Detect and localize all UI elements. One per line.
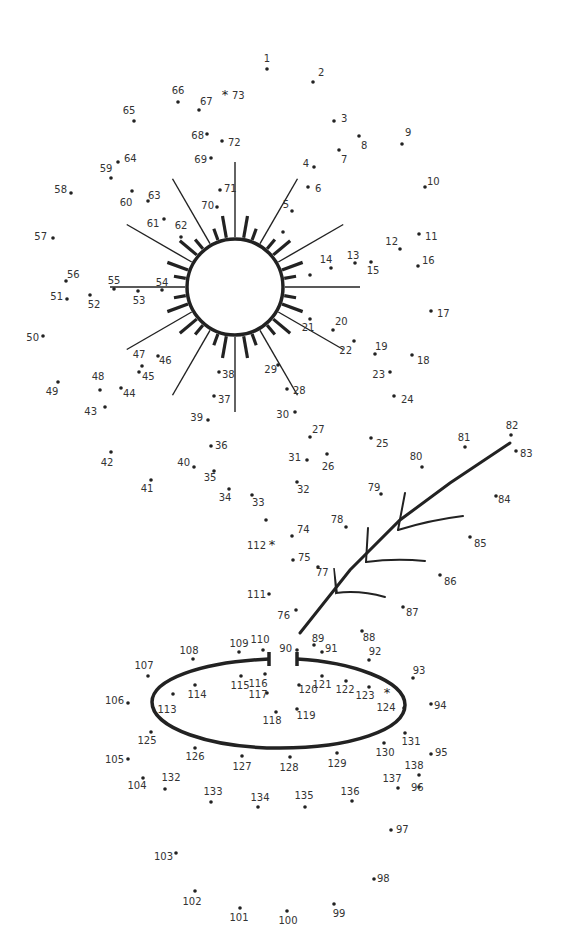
dot-point[interactable] bbox=[303, 805, 307, 809]
dot-point[interactable] bbox=[137, 370, 141, 374]
dot-point[interactable] bbox=[41, 334, 45, 338]
puzzle-dot[interactable]: 29 bbox=[264, 363, 280, 375]
puzzle-dot[interactable]: 24 bbox=[392, 394, 414, 405]
dot-point[interactable] bbox=[65, 297, 69, 301]
dot-point[interactable] bbox=[331, 328, 335, 332]
puzzle-dot[interactable]: 121 bbox=[312, 674, 331, 690]
puzzle-dot[interactable]: 108 bbox=[179, 645, 198, 661]
dot-point[interactable] bbox=[197, 108, 201, 112]
puzzle-dot[interactable]: 81 bbox=[458, 432, 471, 449]
dot-point[interactable] bbox=[193, 889, 197, 893]
puzzle-dot[interactable]: 93 bbox=[411, 665, 425, 680]
dot-point[interactable] bbox=[103, 405, 107, 409]
puzzle-dot[interactable]: 124 bbox=[376, 702, 405, 713]
puzzle-dot[interactable]: 111 bbox=[247, 589, 271, 600]
dot-point[interactable] bbox=[372, 877, 376, 881]
puzzle-dot[interactable]: 129 bbox=[327, 751, 346, 769]
dot-point[interactable] bbox=[332, 119, 336, 123]
puzzle-dot[interactable]: 95 bbox=[429, 747, 448, 758]
puzzle-dot[interactable]: 82 bbox=[506, 420, 519, 437]
dot-point[interactable] bbox=[320, 674, 324, 678]
dot-point[interactable] bbox=[295, 648, 299, 652]
dot-point[interactable] bbox=[193, 683, 197, 687]
dot-point[interactable] bbox=[176, 100, 180, 104]
puzzle-dot[interactable]: 85 bbox=[468, 535, 487, 549]
puzzle-dot[interactable]: 35 bbox=[204, 469, 217, 483]
dot-point[interactable] bbox=[344, 525, 348, 529]
dot-point[interactable] bbox=[429, 309, 433, 313]
puzzle-dot[interactable]: 97 bbox=[389, 824, 409, 835]
dot-point[interactable] bbox=[401, 605, 405, 609]
puzzle-dot[interactable]: 27 bbox=[308, 424, 325, 439]
puzzle-dot[interactable]: 106 bbox=[105, 695, 130, 706]
dot-point[interactable] bbox=[51, 236, 55, 240]
puzzle-dot[interactable]: 89 bbox=[312, 633, 325, 647]
dot-point[interactable] bbox=[132, 119, 136, 123]
puzzle-dot[interactable]: 30 bbox=[276, 409, 297, 420]
dot-point[interactable] bbox=[264, 518, 268, 522]
puzzle-dot[interactable]: 94 bbox=[429, 700, 447, 711]
dot-point[interactable] bbox=[291, 558, 295, 562]
dot-point[interactable] bbox=[367, 685, 371, 689]
puzzle-dot[interactable]: 37 bbox=[212, 394, 231, 405]
puzzle-dot[interactable]: 103 bbox=[154, 851, 178, 862]
dot-point[interactable] bbox=[410, 353, 414, 357]
puzzle-dot[interactable]: 80 bbox=[410, 451, 424, 469]
dot-point[interactable] bbox=[463, 445, 467, 449]
puzzle-dot[interactable]: 67 bbox=[197, 96, 213, 112]
puzzle-dot[interactable]: 72 bbox=[220, 137, 241, 148]
puzzle-dot[interactable]: 126 bbox=[185, 746, 204, 762]
dot-point[interactable] bbox=[353, 261, 357, 265]
puzzle-dot[interactable]: 10 bbox=[423, 176, 440, 189]
puzzle-dot[interactable]: 32 bbox=[295, 480, 310, 495]
dot-point[interactable] bbox=[69, 191, 73, 195]
puzzle-dot[interactable]: 137 bbox=[382, 773, 401, 790]
dot-point[interactable] bbox=[206, 418, 210, 422]
dot-point[interactable] bbox=[209, 444, 213, 448]
puzzle-dot[interactable]: 22 bbox=[339, 339, 356, 356]
puzzle-dot[interactable]: 63 bbox=[146, 190, 161, 203]
dot-point[interactable] bbox=[402, 706, 406, 710]
dot-point[interactable] bbox=[308, 317, 312, 321]
puzzle-dot[interactable]: 127 bbox=[232, 754, 251, 772]
dot-point[interactable] bbox=[290, 209, 294, 213]
puzzle-dot[interactable]: 128 bbox=[279, 755, 298, 773]
puzzle-dot[interactable]: 64 bbox=[116, 153, 137, 164]
puzzle-dot[interactable]: 26 bbox=[322, 452, 335, 472]
puzzle-dot[interactable]: 91 bbox=[320, 643, 338, 654]
dot-point[interactable] bbox=[116, 160, 120, 164]
puzzle-dot[interactable]: 59 bbox=[100, 163, 113, 180]
dot-point[interactable] bbox=[388, 370, 392, 374]
dot-point[interactable] bbox=[369, 260, 373, 264]
puzzle-dot[interactable]: 12 bbox=[385, 236, 402, 251]
puzzle-dot[interactable]: 2 bbox=[311, 67, 324, 84]
puzzle-dot[interactable]: 123 bbox=[355, 685, 374, 701]
puzzle-dot[interactable]: 8 bbox=[357, 134, 367, 151]
puzzle-dot[interactable]: 101 bbox=[229, 906, 248, 923]
dot-point[interactable] bbox=[400, 142, 404, 146]
dot-point[interactable] bbox=[329, 266, 333, 270]
dot-point[interactable] bbox=[163, 787, 167, 791]
dot-point[interactable] bbox=[160, 288, 164, 292]
puzzle-dot[interactable]: 38 bbox=[217, 369, 235, 380]
puzzle-dot[interactable]: 6 bbox=[306, 183, 321, 194]
puzzle-dot[interactable]: 7 bbox=[337, 148, 347, 165]
dot-point[interactable] bbox=[288, 755, 292, 759]
puzzle-dot[interactable]: 11 bbox=[417, 231, 438, 242]
puzzle-dot[interactable]: 136 bbox=[340, 786, 359, 803]
puzzle-dot[interactable]: 69 bbox=[194, 154, 213, 165]
puzzle-dot[interactable]: 60 bbox=[120, 189, 134, 208]
dot-point[interactable] bbox=[109, 176, 113, 180]
puzzle-dot[interactable]: 48 bbox=[92, 371, 105, 392]
puzzle-dot[interactable]: 104 bbox=[127, 776, 146, 791]
puzzle-dot[interactable]: 115 bbox=[230, 674, 249, 691]
dot-point[interactable] bbox=[352, 339, 356, 343]
puzzle-dot[interactable]: 50 bbox=[26, 332, 45, 343]
dot-point[interactable] bbox=[325, 452, 329, 456]
dot-point[interactable] bbox=[239, 674, 243, 678]
puzzle-dot[interactable]: 78 bbox=[331, 514, 348, 529]
dot-point[interactable] bbox=[398, 247, 402, 251]
dot-point[interactable] bbox=[392, 394, 396, 398]
dot-point[interactable] bbox=[416, 264, 420, 268]
puzzle-dot[interactable]: 58 bbox=[54, 184, 73, 195]
